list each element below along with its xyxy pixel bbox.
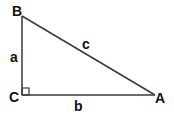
right-angle-marker [22,88,29,95]
side-label-c: c [82,36,90,52]
vertex-label-b: B [12,3,22,19]
right-triangle-diagram: B C A a c b [0,0,174,115]
vertex-label-a: A [155,90,165,106]
side-label-b: b [74,98,83,114]
vertex-label-c: C [9,89,19,105]
side-c-line [22,16,155,95]
side-label-a: a [10,49,18,65]
